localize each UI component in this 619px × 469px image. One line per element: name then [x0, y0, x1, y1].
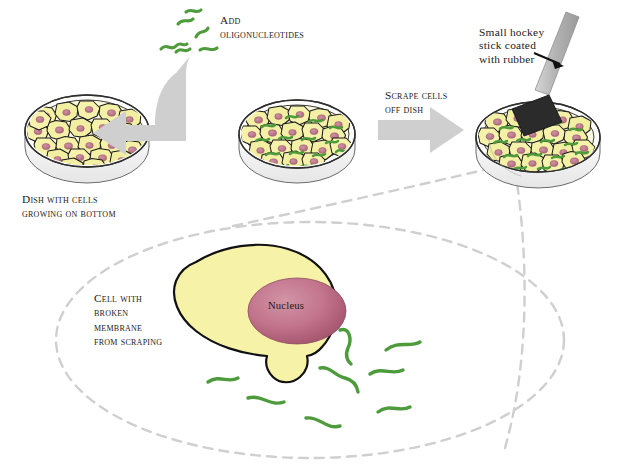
nucleus-icon [248, 278, 346, 344]
magnified-cell [174, 245, 346, 382]
petri-dish-with-oligos [239, 100, 355, 183]
figure-canvas: Dish with cells growing on bottom Add ol… [0, 0, 619, 469]
diagram-artwork [0, 0, 619, 469]
caption-add-oligonucleotides: Add oligonucleotides [220, 14, 304, 41]
caption-cell-broken-membrane: Cell with broken membrane from scraping [94, 291, 162, 349]
nucleus-label: Nucleus [268, 300, 304, 311]
caption-hockey-stick: Small hockey stick coated with rubber [479, 26, 544, 66]
caption-dish-with-cells: Dish with cells growing on bottom [22, 193, 116, 220]
caption-scrape-cells: Scrape cells off dish [385, 89, 447, 116]
free-oligonucleotides [161, 10, 217, 52]
